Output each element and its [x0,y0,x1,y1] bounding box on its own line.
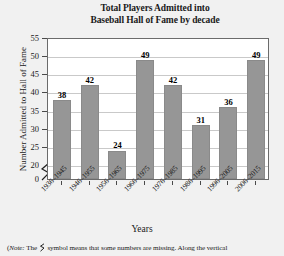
bar-slot [131,39,159,179]
bar[interactable] [136,60,154,179]
x-axis-tick-mark [89,181,90,185]
x-axis-tick-mark [200,181,201,185]
bar-value-label: 38 [48,90,76,100]
y-axis-tick-label: 40 [31,87,40,97]
bar-slot [48,39,76,179]
bar-value-label: 49 [242,50,270,60]
bars-layer: 3842244942313649 [48,39,268,179]
chart-title: Total Players Admitted into Baseball Hal… [40,3,270,26]
chart-title-line-2: Baseball Hall of Fame by decade [40,15,270,27]
x-axis-tick-mark [172,181,173,185]
bar-slot [104,39,132,179]
y-axis-tick-label: 20 [31,160,40,170]
y-axis-tick-label: 55 [31,33,40,43]
bar-slot [187,39,215,179]
plot-area: 3842244942313649 [47,38,269,180]
x-axis-tick-mark [61,181,62,185]
bar[interactable] [247,60,265,179]
x-axis-title: Years [0,224,284,234]
x-axis-tick-mark [255,181,256,185]
y-axis-tick-label: 50 [31,51,40,61]
bar-value-label: 36 [215,97,243,107]
x-axis-tick-mark [227,181,228,185]
footnote-text-after: symbol means that some numbers are missi… [46,244,228,252]
bar-slot [215,39,243,179]
x-axis-ticks: 1936–19451946–19551956–19651966–19751976… [0,181,284,225]
x-axis-tick-mark [116,181,117,185]
bar-value-label: 31 [187,115,215,125]
bar-chart-figure: Total Players Admitted into Baseball Hal… [0,0,284,256]
y-axis-tick-label: 25 [31,142,40,152]
y-axis-tick-label: 35 [31,106,40,116]
bar-slot [159,39,187,179]
footnote-text-before: The [25,244,39,252]
bar-slot [242,39,270,179]
y-axis-tick-label: 30 [31,124,40,134]
chart-footnote: (Note: The symbol means that some number… [7,243,283,253]
bar-value-label: 42 [76,75,104,85]
axis-break-symbol-inline-icon [39,243,46,252]
x-axis-tick-mark [144,181,145,185]
bar-value-label: 49 [131,50,159,60]
chart-title-line-1: Total Players Admitted into [40,3,270,15]
footnote-note-word: Note: [9,244,24,252]
bar-slot [76,39,104,179]
bar-value-label: 42 [159,75,187,85]
bar-value-label: 24 [104,140,132,150]
y-axis-tick-label: 45 [31,69,40,79]
